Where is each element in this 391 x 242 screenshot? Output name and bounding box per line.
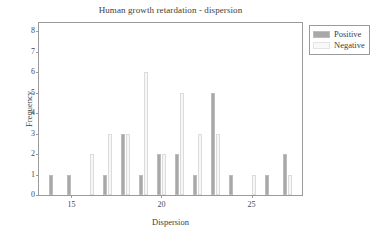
- y-axis-tick-label: 1: [31, 171, 35, 179]
- y-axis-tick-label: 3: [31, 130, 35, 138]
- legend-item-label: Positive: [334, 30, 361, 39]
- y-axis-tick-mark: [36, 195, 39, 196]
- y-axis-tick-label: 2: [31, 150, 35, 158]
- chart-figure: Human growth retardation - dispersion Fr…: [0, 0, 391, 242]
- bar-positive-27: [283, 154, 287, 195]
- positive-swatch: [313, 31, 330, 38]
- plot-frame: Frequency 012345678152025: [38, 22, 303, 196]
- y-axis-tick-label: 4: [31, 109, 35, 117]
- y-axis-tick-label: 5: [31, 89, 35, 97]
- legend-item-negative[interactable]: Negative: [313, 40, 365, 51]
- y-axis-tick-label: 7: [31, 48, 35, 56]
- y-axis-tick-label: 8: [31, 27, 35, 35]
- x-axis-tick-label: 15: [67, 201, 75, 209]
- legend-item-positive[interactable]: Positive: [313, 29, 365, 40]
- bar-negative-27: [288, 175, 292, 195]
- legend-item-label: Negative: [334, 41, 365, 50]
- y-axis-tick-label: 0: [31, 191, 35, 199]
- x-axis-tick-mark: [161, 195, 162, 198]
- x-axis-tick-label: 25: [248, 201, 256, 209]
- x-axis-tick-label: 20: [157, 201, 165, 209]
- chart-title: Human growth retardation - dispersion: [38, 5, 303, 15]
- x-axis-label: Dispersion: [38, 217, 303, 227]
- chart-legend: PositiveNegative: [309, 25, 370, 55]
- bar-group: [39, 23, 302, 195]
- x-axis-tick-mark: [252, 195, 253, 198]
- negative-swatch: [313, 42, 330, 49]
- plot-area: 012345678152025: [39, 23, 302, 195]
- x-axis-tick-mark: [71, 195, 72, 198]
- y-axis-tick-label: 6: [31, 68, 35, 76]
